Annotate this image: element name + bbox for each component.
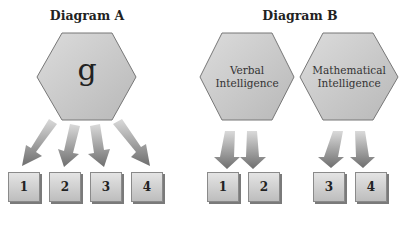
arrow-a3 xyxy=(88,124,110,167)
box-b3: 3 xyxy=(313,172,345,202)
box-b1: 1 xyxy=(207,172,239,202)
verbal-line2: Intelligence xyxy=(200,77,294,90)
box-a4: 4 xyxy=(131,172,163,202)
verbal-intelligence-label: Verbal Intelligence xyxy=(200,64,294,90)
arrow-a4 xyxy=(113,119,150,166)
arrow-b1 xyxy=(214,131,240,169)
box-a3: 3 xyxy=(90,172,122,202)
arrow-a2 xyxy=(58,124,80,167)
box-b2: 2 xyxy=(248,172,280,202)
math-line1: Mathematical xyxy=(300,64,398,77)
arrow-b4 xyxy=(350,131,375,168)
arrow-b3 xyxy=(318,131,344,168)
arrow-a1 xyxy=(22,119,57,166)
verbal-line1: Verbal xyxy=(200,64,294,77)
arrow-b2 xyxy=(240,131,266,169)
g-label: g xyxy=(57,52,117,87)
box-a1: 1 xyxy=(8,172,40,202)
math-line2: Intelligence xyxy=(300,77,398,90)
box-b4: 4 xyxy=(355,172,387,202)
box-a2: 2 xyxy=(49,172,81,202)
mathematical-intelligence-label: Mathematical Intelligence xyxy=(300,64,398,90)
